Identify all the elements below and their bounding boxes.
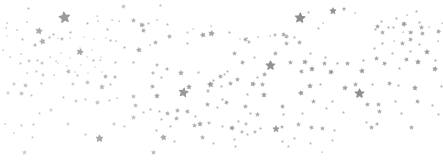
star-icon [228, 124, 236, 132]
star-icon [34, 26, 43, 35]
star-icon [9, 56, 12, 59]
star-icon [151, 150, 156, 155]
star-icon [95, 134, 104, 143]
star-icon [261, 92, 267, 98]
star-icon [269, 35, 272, 38]
star-icon [415, 59, 421, 65]
star-icon [359, 68, 366, 75]
star-icon [280, 125, 284, 129]
star-icon [60, 52, 62, 54]
star-icon [287, 145, 290, 148]
star-icon [197, 121, 203, 127]
star-icon [354, 88, 365, 99]
star-icon [249, 112, 252, 115]
star-icon [391, 52, 394, 55]
star-icon [342, 111, 345, 114]
star-icon [84, 133, 87, 136]
star-icon [435, 28, 441, 34]
star-icon [132, 61, 135, 64]
star-icon [57, 37, 59, 39]
star-icon [41, 73, 45, 77]
star-icon [166, 23, 169, 26]
star-icon [228, 31, 231, 34]
star-icon [154, 93, 160, 99]
star-icon [200, 135, 205, 140]
star-icon [27, 7, 30, 10]
star-icon [206, 89, 210, 93]
star-icon [428, 26, 431, 29]
star-icon [293, 137, 296, 140]
star-icon [381, 42, 384, 45]
star-icon [369, 125, 374, 130]
star-icon [160, 118, 163, 121]
star-icon [116, 97, 119, 100]
star-icon [400, 41, 405, 46]
star-icon [32, 123, 35, 126]
star-icon [53, 74, 56, 77]
star-icon [199, 31, 206, 38]
star-icon [402, 31, 405, 34]
star-icon [322, 22, 325, 25]
star-icon [30, 94, 33, 97]
star-icon [69, 31, 72, 34]
star-icon [407, 36, 413, 42]
star-icon [27, 59, 31, 63]
star-icon [131, 115, 136, 120]
star-icon [342, 85, 349, 92]
star-icon [212, 142, 215, 145]
star-icon [62, 96, 65, 99]
star-icon [160, 76, 163, 79]
star-icon [20, 124, 23, 127]
star-icon [308, 124, 314, 130]
star-icon [272, 125, 280, 133]
star-icon [12, 82, 16, 86]
star-icon [246, 39, 252, 45]
star-icon [377, 109, 382, 114]
star-icon [65, 68, 71, 74]
star-icon [69, 37, 71, 39]
star-icon [301, 58, 308, 65]
star-icon [432, 66, 439, 73]
star-icon [374, 56, 379, 61]
star-icon [186, 84, 192, 90]
star-icon [86, 56, 88, 58]
star-icon [221, 125, 224, 128]
star-icon [86, 22, 89, 25]
star-icon [298, 68, 304, 74]
star-icon [255, 112, 260, 117]
star-icon [280, 31, 286, 37]
star-icon [36, 59, 39, 62]
star-icon [246, 133, 249, 136]
star-icon [151, 71, 155, 75]
star-icon [419, 25, 424, 30]
star-icon [112, 122, 116, 126]
star-icon [106, 28, 109, 31]
star-icon [403, 56, 409, 62]
star-icon [392, 26, 395, 29]
star-icon [99, 59, 102, 62]
star-icon [175, 108, 180, 113]
star-icon [132, 102, 138, 108]
star-icon [376, 102, 381, 107]
star-icon [96, 15, 99, 18]
star-icon [281, 140, 284, 143]
star-icon [319, 83, 322, 86]
star-icon [18, 90, 24, 96]
star-icon [288, 60, 293, 65]
star-icon [260, 82, 265, 87]
star-icon [223, 73, 226, 76]
star-icon [336, 62, 339, 65]
star-icon [419, 30, 425, 36]
star-icon [244, 122, 248, 126]
star-icon [194, 115, 197, 118]
star-icon [237, 120, 240, 123]
star-icon [409, 125, 414, 130]
star-icon [272, 50, 278, 56]
star-icon [400, 20, 408, 28]
star-icon [94, 99, 100, 105]
star-icon [186, 42, 189, 45]
star-icon [322, 61, 327, 66]
star-icon [397, 84, 400, 87]
star-icon [400, 112, 403, 115]
star-icon [325, 107, 328, 110]
